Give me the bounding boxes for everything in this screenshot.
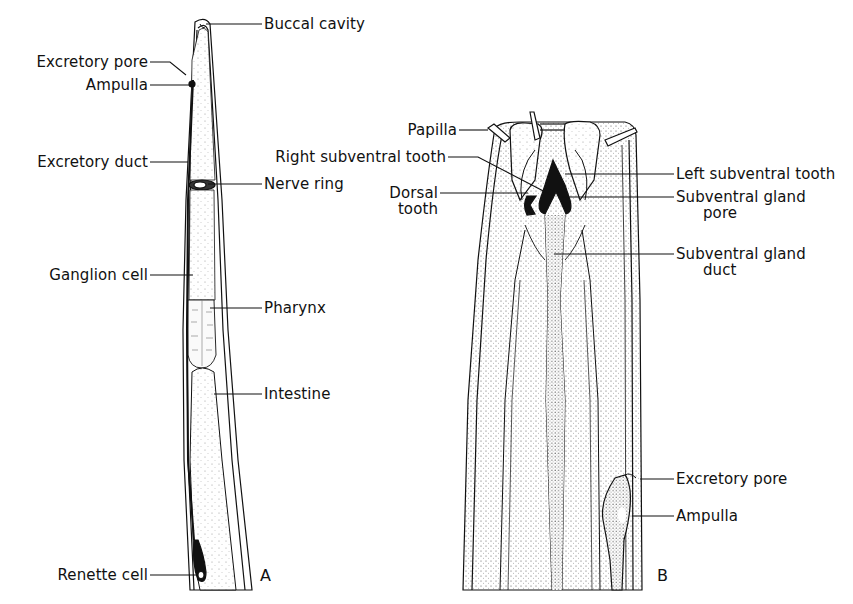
label-ampulla-b: Ampulla <box>676 508 738 524</box>
label-right-subventral-tooth: Right subventral tooth <box>200 149 446 165</box>
label-subventral-gland-pore-line1: Subventral gland <box>676 189 806 205</box>
label-subventral-gland-duct-line1: Subventral gland <box>676 246 806 262</box>
label-renette-cell: Renette cell <box>0 567 148 583</box>
label-papilla: Papilla <box>300 122 457 138</box>
label-ganglion-cell: Ganglion cell <box>0 267 148 283</box>
panel-label-a: A <box>260 566 271 585</box>
label-excretory-pore-a: Excretory pore <box>0 54 148 70</box>
panel-a-worm <box>183 19 252 590</box>
label-dorsal-tooth-line1: Dorsal <box>300 185 438 201</box>
label-ampulla-a: Ampulla <box>0 77 148 93</box>
panel-b-head <box>463 112 642 590</box>
label-excretory-duct: Excretory duct <box>0 154 148 170</box>
label-left-subventral-tooth: Left subventral tooth <box>676 166 835 182</box>
label-intestine: Intestine <box>264 386 331 402</box>
panel-label-b: B <box>657 566 668 585</box>
label-excretory-pore-b: Excretory pore <box>676 471 787 487</box>
label-subventral-gland-duct-line2: duct <box>703 262 737 278</box>
label-pharynx: Pharynx <box>264 300 326 316</box>
label-dorsal-tooth-line2: tooth <box>300 201 438 217</box>
label-buccal-cavity: Buccal cavity <box>264 16 365 32</box>
label-subventral-gland-pore-line2: pore <box>703 205 737 221</box>
